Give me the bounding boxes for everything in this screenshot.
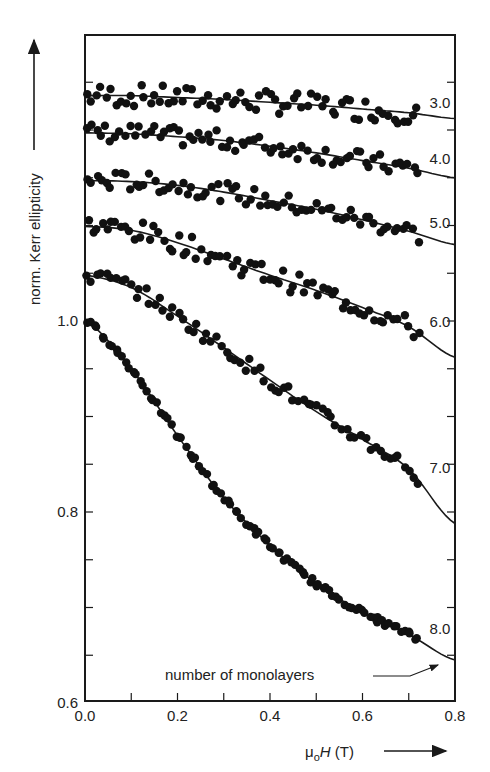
data-point xyxy=(168,303,176,311)
data-point xyxy=(313,93,321,101)
data-point xyxy=(313,199,321,207)
data-point xyxy=(87,121,95,129)
annotation-arrow-icon xyxy=(373,665,438,676)
data-point xyxy=(327,204,335,212)
data-point xyxy=(300,288,308,296)
data-point xyxy=(168,180,176,188)
data-point xyxy=(300,571,308,579)
data-point xyxy=(158,306,166,314)
data-points xyxy=(82,81,423,644)
data-point xyxy=(250,185,258,193)
data-point xyxy=(130,102,138,110)
data-point xyxy=(101,122,109,130)
data-point xyxy=(174,187,182,195)
data-point xyxy=(179,141,187,149)
data-point xyxy=(127,92,135,100)
data-point xyxy=(371,116,379,124)
data-point xyxy=(179,179,187,187)
data-point xyxy=(342,298,350,306)
data-point xyxy=(343,425,351,433)
y-tick-label: 0.6 xyxy=(57,694,78,711)
data-point xyxy=(216,97,224,105)
data-point xyxy=(240,266,248,274)
data-point xyxy=(178,97,186,105)
data-point xyxy=(259,377,267,385)
data-point xyxy=(146,236,154,244)
data-point xyxy=(346,96,354,104)
data-point xyxy=(414,480,422,488)
data-point xyxy=(284,382,292,390)
data-point xyxy=(138,81,146,89)
data-point xyxy=(134,285,142,293)
y-tick-label: 1.0 xyxy=(57,312,78,329)
data-point xyxy=(362,434,370,442)
data-point xyxy=(307,206,315,214)
data-point xyxy=(127,280,135,288)
data-point xyxy=(170,97,178,105)
data-point xyxy=(245,355,253,363)
data-point xyxy=(154,228,162,236)
data-point xyxy=(216,252,224,260)
fit-curve-7.0 xyxy=(85,275,455,523)
data-point xyxy=(236,359,244,367)
curve-label-3.0: 3.0 xyxy=(430,94,451,111)
data-point xyxy=(151,177,159,185)
data-point xyxy=(255,91,263,99)
data-point xyxy=(257,260,265,268)
data-point xyxy=(197,245,205,253)
data-point xyxy=(350,214,358,222)
data-point xyxy=(309,278,317,286)
data-point xyxy=(191,454,199,462)
curve-label-7.0: 7.0 xyxy=(430,459,451,476)
data-point xyxy=(97,132,105,140)
data-point xyxy=(150,91,158,99)
data-point xyxy=(182,248,190,256)
data-point xyxy=(203,470,211,478)
data-point xyxy=(206,138,214,146)
data-point xyxy=(326,412,334,420)
data-point xyxy=(415,238,423,246)
data-point xyxy=(226,136,234,144)
data-point xyxy=(347,206,355,214)
data-point xyxy=(401,311,409,319)
data-point xyxy=(274,279,282,287)
data-point xyxy=(403,160,411,168)
data-point xyxy=(321,95,329,103)
data-point xyxy=(321,146,329,154)
data-point xyxy=(279,266,287,274)
data-point xyxy=(379,318,387,326)
y-axis-title-group: norm. Kerr ellipticity xyxy=(26,40,43,305)
data-point xyxy=(204,91,212,99)
data-point xyxy=(192,255,200,263)
data-point xyxy=(318,159,326,167)
data-point xyxy=(242,367,250,375)
data-point xyxy=(361,97,369,105)
data-point xyxy=(255,133,263,141)
data-point xyxy=(275,548,283,556)
data-point xyxy=(131,131,139,139)
monolayers-annotation: number of monolayers xyxy=(165,665,438,683)
data-point xyxy=(331,110,339,118)
data-point xyxy=(160,237,168,245)
data-point xyxy=(182,443,190,451)
data-point xyxy=(413,169,421,177)
data-point xyxy=(384,167,392,175)
data-point xyxy=(369,219,377,227)
data-point xyxy=(376,150,384,158)
annotation-label: number of monolayers xyxy=(165,666,314,683)
data-point xyxy=(106,85,114,93)
data-point xyxy=(139,219,147,227)
data-point xyxy=(313,291,321,299)
data-point xyxy=(136,233,144,241)
curve-label-8.0: 8.0 xyxy=(430,620,451,637)
data-point xyxy=(216,197,224,205)
x-axis-title: μoH (T) xyxy=(305,743,354,763)
data-point xyxy=(233,256,241,264)
data-point xyxy=(223,252,231,260)
data-point xyxy=(92,225,100,233)
data-point xyxy=(86,278,94,286)
data-point xyxy=(188,85,196,93)
data-point xyxy=(405,629,413,637)
data-point xyxy=(232,96,240,104)
data-point xyxy=(179,315,187,323)
